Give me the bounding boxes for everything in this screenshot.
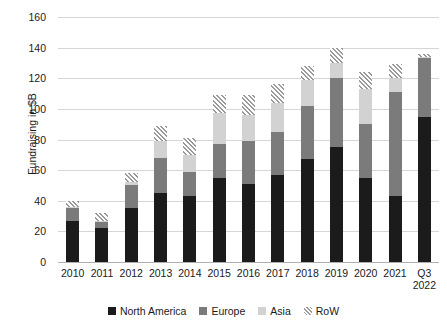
legend-item[interactable]: Europe <box>199 305 245 317</box>
segment-row <box>213 95 226 113</box>
segment-row <box>66 201 79 207</box>
segment-europe <box>271 132 284 175</box>
y-tick-label: 60 <box>0 164 46 176</box>
segment-north-america <box>95 228 108 262</box>
segment-asia <box>66 207 79 209</box>
y-tick-label: 0 <box>0 256 46 268</box>
segment-row <box>330 48 343 63</box>
segment-asia <box>242 115 255 141</box>
bar-column <box>301 17 314 262</box>
x-axis-line <box>58 262 439 263</box>
segment-asia <box>418 57 431 59</box>
segment-north-america <box>125 208 138 262</box>
segment-north-america <box>183 196 196 262</box>
bar-column <box>125 17 138 262</box>
segment-north-america <box>66 221 79 262</box>
x-tick-label-line: 2022 <box>402 280 446 292</box>
segment-row <box>95 213 108 221</box>
segment-europe <box>359 124 372 178</box>
segment-asia <box>359 89 372 124</box>
legend-swatch-north-america <box>108 307 116 315</box>
segment-europe <box>301 106 314 160</box>
bar-column <box>154 17 167 262</box>
legend-item[interactable]: RoW <box>304 305 339 317</box>
segment-north-america <box>359 178 372 262</box>
bar-column <box>66 17 79 262</box>
segment-asia <box>213 113 226 144</box>
segment-row <box>183 138 196 155</box>
bar-column <box>359 17 372 262</box>
bar-column <box>242 17 255 262</box>
y-tick-label: 160 <box>0 11 46 23</box>
segment-north-america <box>389 196 402 262</box>
segment-asia <box>154 141 167 158</box>
segment-asia <box>271 103 284 132</box>
segment-europe <box>418 58 431 116</box>
segment-north-america <box>154 193 167 262</box>
bar-column <box>183 17 196 262</box>
segment-north-america <box>242 184 255 262</box>
segment-row <box>154 126 167 141</box>
segment-north-america <box>330 147 343 262</box>
legend-label: Europe <box>211 305 245 317</box>
segment-row <box>389 64 402 78</box>
legend-label: Asia <box>270 305 290 317</box>
y-tick-label: 20 <box>0 225 46 237</box>
segment-asia <box>183 155 196 172</box>
segment-row <box>418 54 431 57</box>
segment-asia <box>125 182 138 185</box>
segment-europe <box>125 185 138 208</box>
segment-europe <box>389 92 402 196</box>
y-tick-label: 80 <box>0 134 46 146</box>
segment-europe <box>154 158 167 193</box>
bar-series-layer <box>58 17 439 262</box>
legend-swatch-asia <box>258 307 266 315</box>
bar-column <box>330 17 343 262</box>
chart-legend: North AmericaEuropeAsiaRoW <box>0 305 447 317</box>
plot-area <box>58 17 439 262</box>
segment-north-america <box>213 178 226 262</box>
segment-north-america <box>301 159 314 262</box>
y-tick-label: 100 <box>0 103 46 115</box>
x-tick-label: Q32022 <box>402 268 446 291</box>
legend-label: North America <box>120 305 187 317</box>
bar-column <box>213 17 226 262</box>
segment-asia <box>95 221 108 223</box>
y-tick-label: 140 <box>0 42 46 54</box>
legend-item[interactable]: North America <box>108 305 187 317</box>
legend-swatch-row <box>304 307 312 315</box>
y-tick-label: 40 <box>0 195 46 207</box>
segment-europe <box>213 144 226 178</box>
segment-europe <box>242 141 255 184</box>
segment-asia <box>330 63 343 78</box>
segment-row <box>242 95 255 115</box>
y-tick-label: 120 <box>0 72 46 84</box>
segment-north-america <box>418 117 431 262</box>
legend-label: RoW <box>316 305 339 317</box>
legend-item[interactable]: Asia <box>258 305 290 317</box>
legend-swatch-europe <box>199 307 207 315</box>
segment-north-america <box>271 175 284 262</box>
segment-asia <box>301 80 314 106</box>
segment-europe <box>183 172 196 197</box>
bar-column <box>271 17 284 262</box>
segment-row <box>359 72 372 89</box>
segment-asia <box>389 78 402 92</box>
segment-europe <box>66 208 79 220</box>
segment-europe <box>330 78 343 147</box>
x-tick-label-line: Q3 <box>402 268 446 280</box>
stacked-bar-chart: Fundraising in $B 020406080100120140160 … <box>0 0 447 334</box>
segment-row <box>301 66 314 80</box>
bar-column <box>418 17 431 262</box>
bar-column <box>95 17 108 262</box>
segment-row <box>125 173 138 182</box>
segment-europe <box>95 222 108 228</box>
segment-row <box>271 84 284 102</box>
bar-column <box>389 17 402 262</box>
